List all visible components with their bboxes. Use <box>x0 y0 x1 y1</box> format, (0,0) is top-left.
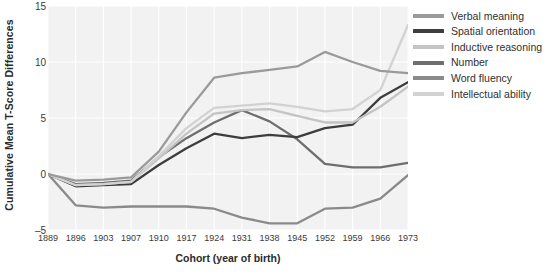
x-axis-tick-label: 1945 <box>287 233 307 243</box>
x-axis-tick-label: 1924 <box>204 233 224 243</box>
x-axis-tick-label: 1931 <box>232 233 252 243</box>
y-axis-tick-label: 15 <box>20 1 46 12</box>
y-axis-tick-label: 10 <box>20 57 46 68</box>
legend-color-swatch <box>413 92 444 96</box>
x-axis-tick-label: 1966 <box>370 233 390 243</box>
y-axis-tick-label: 0 <box>20 169 46 180</box>
legend-label: Number <box>451 57 488 68</box>
chart-svg <box>48 6 408 230</box>
x-axis-tick-label: 1938 <box>260 233 280 243</box>
x-axis-tick-label: 1973 <box>398 233 418 243</box>
x-axis-tick-label: 1903 <box>93 233 113 243</box>
legend-item[interactable]: Verbal meaning <box>413 8 557 24</box>
legend-label: Intellectual ability <box>451 89 531 100</box>
x-axis-title: Cohort (year of birth) <box>48 252 408 264</box>
x-axis-tick-label: 1917 <box>176 233 196 243</box>
chart-figure: Cumulative Mean T-Score Differences 1510… <box>0 0 557 277</box>
legend-color-swatch <box>413 29 444 33</box>
x-axis-tick-label: 1907 <box>121 233 141 243</box>
legend-label: Word fluency <box>451 73 512 84</box>
legend-label: Verbal meaning <box>451 11 524 22</box>
legend-item[interactable]: Number <box>413 55 557 71</box>
legend-item[interactable]: Spatial orientation <box>413 24 557 40</box>
legend-label: Inductive reasoning <box>451 42 542 53</box>
legend-item[interactable]: Word fluency <box>413 70 557 86</box>
legend-item[interactable]: Intellectual ability <box>413 86 557 102</box>
legend-color-swatch <box>413 45 444 49</box>
x-axis-tick-label: 1959 <box>343 233 363 243</box>
x-axis-tick-label: 1889 <box>38 233 58 243</box>
x-axis-tick-label: 1910 <box>149 233 169 243</box>
legend-color-swatch <box>413 14 444 18</box>
x-axis-tick-label: 1896 <box>66 233 86 243</box>
x-axis-tick-label: 1952 <box>315 233 335 243</box>
y-axis-tick-label: 5 <box>20 113 46 124</box>
legend-item[interactable]: Inductive reasoning <box>413 39 557 55</box>
legend-color-swatch <box>413 61 444 65</box>
legend-color-swatch <box>413 76 444 80</box>
chart-legend: Verbal meaningSpatial orientationInducti… <box>413 8 557 102</box>
plot-area <box>48 6 408 230</box>
legend-label: Spatial orientation <box>451 26 535 37</box>
